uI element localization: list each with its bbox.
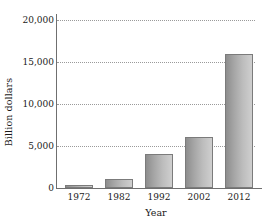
bar-1972[interactable] [65,185,93,188]
x-tick-label: 2002 [188,192,211,203]
x-axis-line [56,188,262,189]
y-tick-label: 20,000 [14,16,54,25]
bars-layer [57,20,255,188]
x-tick-label: 1972 [68,192,91,203]
x-tick-label: 1982 [108,192,131,203]
x-tick-label: 2012 [228,192,251,203]
x-tick-label: 1992 [148,192,171,203]
y-axis-tick-labels: 0 5,000 10,000 15,000 20,000 [14,0,54,224]
x-axis-tick-labels: 1972 1982 1992 2002 2012 [57,192,255,206]
bar-1982[interactable] [105,179,133,188]
y-tick-label: 0 [14,184,54,193]
bar-2002[interactable] [185,137,213,188]
y-tick-label: 15,000 [14,58,54,67]
bar-chart: Billion dollars 0 5,000 10,000 15,000 20… [0,0,268,224]
y-tick-label: 5,000 [14,142,54,151]
bar-1992[interactable] [145,154,173,188]
x-axis-title: Year [57,207,255,218]
bar-2012[interactable] [225,54,253,188]
y-tick-label: 10,000 [14,100,54,109]
